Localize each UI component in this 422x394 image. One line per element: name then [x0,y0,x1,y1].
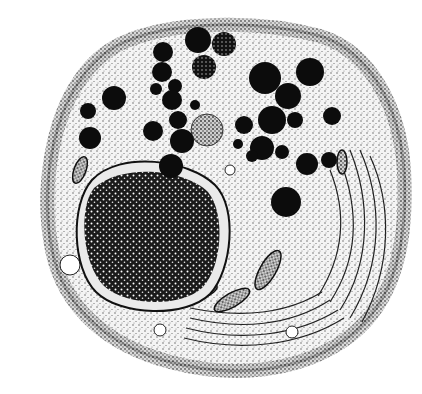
chromatin [84,172,219,302]
vacuole [191,114,223,146]
cell-drawing [0,0,422,394]
cell-illustration [0,0,422,394]
